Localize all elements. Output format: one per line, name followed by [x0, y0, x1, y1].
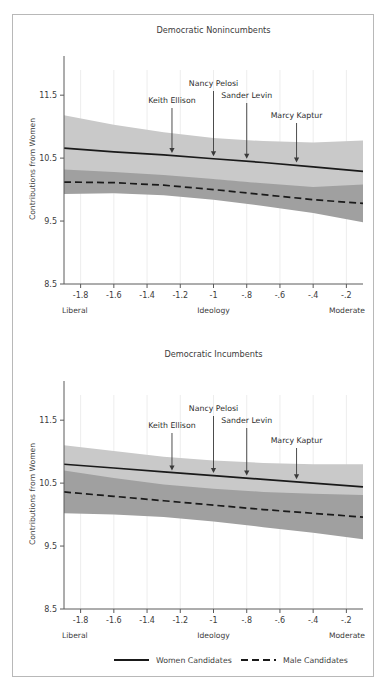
x-tick-label: -1.6 [106, 291, 122, 300]
y-axis-title: Contributions from Women [28, 118, 37, 220]
x-axis-left-label: Liberal [62, 306, 88, 315]
x-axis-right-label: Moderate [329, 306, 365, 315]
x-tick-label: -1.4 [139, 291, 155, 300]
x-tick-label: -1 [210, 291, 218, 300]
x-tick-label: -.2 [341, 291, 352, 300]
annotation-label: Keith Ellison [148, 421, 195, 430]
figure-root: Democratic Nonincumbents8.59.510.511.5-1… [0, 0, 388, 688]
x-axis-right-label: Moderate [329, 631, 365, 640]
y-axis-title: Contributions from Women [28, 443, 37, 545]
x-tick-label: -.2 [341, 616, 352, 625]
x-tick-label: -1.2 [172, 616, 188, 625]
legend: Women CandidatesMale Candidates [114, 656, 348, 665]
x-tick-label: -.4 [308, 291, 319, 300]
x-tick-label: -.4 [308, 616, 319, 625]
x-tick-label: -1.8 [73, 291, 89, 300]
panel-nonincumbents: Democratic Nonincumbents8.59.510.511.5-1… [28, 25, 365, 315]
y-tick-label: 9.5 [44, 542, 57, 551]
x-tick-label: -1.8 [73, 616, 89, 625]
panel-incumbents: Democratic Incumbents8.59.510.511.5-1.8-… [28, 349, 365, 640]
annotation-label: Marcy Kaptur [271, 436, 324, 445]
x-tick-label: -.8 [241, 616, 252, 625]
panel-title: Democratic Nonincumbents [156, 25, 270, 35]
chart-canvas: Democratic Nonincumbents8.59.510.511.5-1… [13, 15, 373, 676]
annotation-label: Marcy Kaptur [271, 111, 324, 120]
y-tick-label: 11.5 [39, 416, 57, 425]
x-tick-label: -.6 [275, 616, 286, 625]
y-tick-label: 8.5 [44, 280, 57, 289]
y-tick-label: 10.5 [39, 154, 57, 163]
x-axis-title: Ideology [197, 306, 230, 315]
annotation-label: Sander Levin [221, 91, 272, 100]
y-tick-label: 11.5 [39, 91, 57, 100]
y-tick-label: 10.5 [39, 479, 57, 488]
x-tick-label: -1.2 [172, 291, 188, 300]
annotation-label: Nancy Pelosi [189, 404, 238, 413]
x-tick-label: -.8 [241, 291, 252, 300]
panel-title: Democratic Incumbents [165, 349, 263, 359]
legend-label-women: Women Candidates [156, 656, 232, 665]
x-tick-label: -1.4 [139, 616, 155, 625]
annotation-label: Nancy Pelosi [189, 79, 238, 88]
x-axis-title: Ideology [197, 631, 230, 640]
annotation-label: Sander Levin [221, 416, 272, 425]
annotation-label: Keith Ellison [148, 96, 195, 105]
x-tick-label: -.6 [275, 291, 286, 300]
x-tick-label: -1.6 [106, 616, 122, 625]
y-tick-label: 9.5 [44, 217, 57, 226]
x-axis-left-label: Liberal [62, 631, 88, 640]
y-tick-label: 8.5 [44, 605, 57, 614]
x-tick-label: -1 [210, 616, 218, 625]
figure-frame: Democratic Nonincumbents8.59.510.511.5-1… [12, 14, 374, 677]
legend-label-male: Male Candidates [283, 656, 348, 665]
